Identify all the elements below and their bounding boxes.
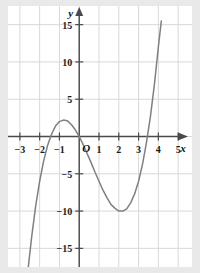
y-tick-label: −15 [57,243,73,254]
x-tick-label: −1 [54,144,65,155]
y-tick-label: −10 [57,206,73,217]
x-tick-label: 3 [136,144,141,155]
x-tick-label: −3 [15,144,26,155]
graph-figure: −3−2−112345−15−10−551015Oxy [0,0,200,273]
y-axis-label: y [66,7,73,19]
axes [8,7,188,267]
x-tick-label: 1 [97,144,102,155]
x-tick-label: −2 [34,144,45,155]
x-axis-label: x [179,142,186,154]
y-tick-label: 5 [67,94,72,105]
y-tick-label: −5 [62,169,73,180]
origin-label: O [82,142,90,154]
y-tick-label: 10 [62,57,72,68]
plot-area: −3−2−112345−15−10−551015Oxy [8,6,192,267]
x-axis-arrow [178,133,188,141]
axis-text: −3−2−112345−15−10−551015Oxy [15,7,187,254]
coordinate-plane-svg: −3−2−112345−15−10−551015Oxy [8,6,192,267]
x-tick-label: 4 [156,144,161,155]
y-tick-label: 15 [62,20,72,31]
y-axis-arrow [75,7,83,16]
x-tick-label: 2 [116,144,121,155]
